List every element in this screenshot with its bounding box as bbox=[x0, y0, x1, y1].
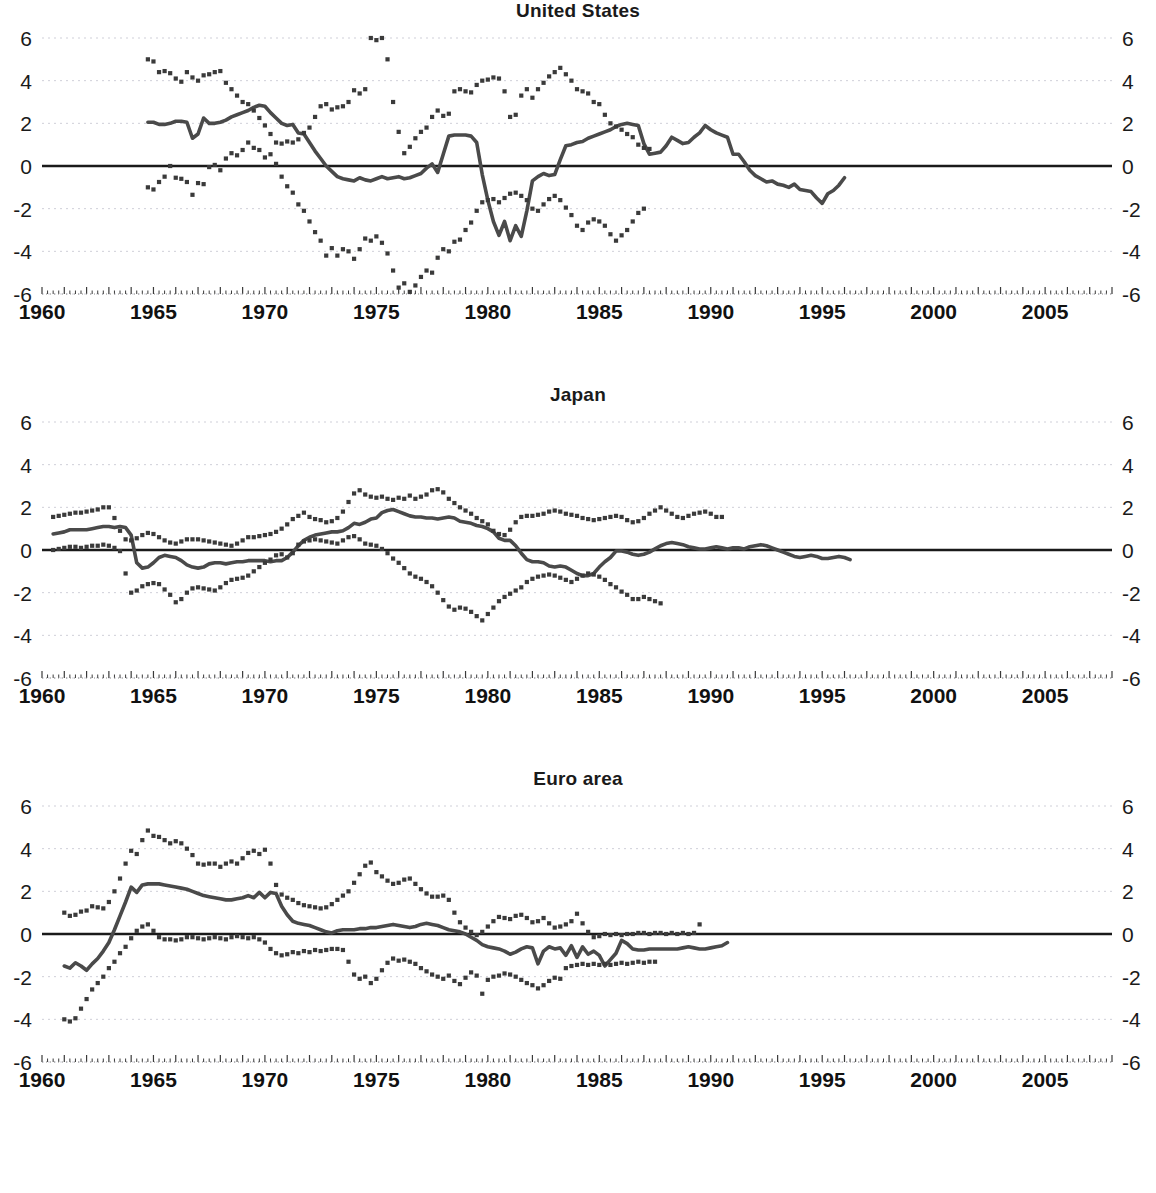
series-band-marker bbox=[497, 76, 501, 80]
series-band-marker bbox=[603, 578, 607, 582]
panel-euro-area: Euro area 66442200-2-2-4-4-6-61960196519… bbox=[0, 768, 1156, 1152]
series-band-marker bbox=[686, 514, 690, 518]
series-band-marker bbox=[90, 987, 94, 991]
series-band-marker bbox=[168, 540, 172, 544]
series-band-marker bbox=[452, 240, 456, 244]
series-band-marker bbox=[207, 862, 211, 866]
series-band-marker bbox=[625, 962, 629, 966]
series-band-marker bbox=[168, 164, 172, 168]
series-band-marker bbox=[419, 130, 423, 134]
series-band-marker bbox=[140, 838, 144, 842]
series-band-marker bbox=[558, 198, 562, 202]
series-band-marker bbox=[564, 966, 568, 970]
series-band-marker bbox=[179, 841, 183, 845]
series-band-marker bbox=[168, 937, 172, 941]
series-band-marker bbox=[631, 932, 635, 936]
series-band-marker bbox=[324, 905, 328, 909]
series-band-marker bbox=[129, 591, 133, 595]
series-band-marker bbox=[101, 975, 105, 979]
series-band-marker bbox=[146, 57, 150, 61]
series-band-marker bbox=[140, 924, 144, 928]
series-band-marker bbox=[447, 497, 451, 501]
x-axis-tick-label: 1970 bbox=[242, 684, 289, 707]
series-band-marker bbox=[436, 975, 440, 979]
y-axis-tick-label-right: -2 bbox=[1122, 198, 1141, 221]
series-band-marker bbox=[363, 87, 367, 91]
series-band-marker bbox=[586, 91, 590, 95]
y-axis-tick-label-left: 6 bbox=[20, 411, 32, 434]
series-band-marker bbox=[475, 516, 479, 520]
series-band-marker bbox=[307, 538, 311, 542]
series-band-marker bbox=[168, 841, 172, 845]
series-band-marker bbox=[525, 580, 529, 584]
series-band-marker bbox=[257, 148, 261, 152]
y-axis-tick-label-left: 2 bbox=[20, 496, 32, 519]
series-band-marker bbox=[118, 951, 122, 955]
series-band-marker bbox=[296, 901, 300, 905]
series-band-marker bbox=[681, 931, 685, 935]
series-band-marker bbox=[185, 591, 189, 595]
series-band-marker bbox=[619, 515, 623, 519]
series-band-marker bbox=[608, 582, 612, 586]
series-band-marker bbox=[575, 912, 579, 916]
series-band-marker bbox=[436, 591, 440, 595]
series-band-marker bbox=[280, 527, 284, 531]
series-band-marker bbox=[692, 931, 696, 935]
x-axis-tick-label: 1985 bbox=[576, 1068, 623, 1091]
series-band-marker bbox=[302, 903, 306, 907]
series-band-marker bbox=[558, 977, 562, 981]
series-band-marker bbox=[79, 910, 83, 914]
series-band-marker bbox=[553, 926, 557, 930]
series-band-marker bbox=[692, 512, 696, 516]
series-band-marker bbox=[335, 898, 339, 902]
series-band-marker bbox=[202, 586, 206, 590]
series-band-marker bbox=[374, 38, 378, 42]
series-band-marker bbox=[391, 882, 395, 886]
series-band-marker bbox=[508, 192, 512, 196]
series-band-marker bbox=[430, 115, 434, 119]
series-band-marker bbox=[62, 513, 66, 517]
series-band-marker bbox=[129, 849, 133, 853]
series-band-marker bbox=[558, 510, 562, 514]
series-band-marker bbox=[698, 511, 702, 515]
series-band-marker bbox=[424, 580, 428, 584]
series-band-marker bbox=[458, 606, 462, 610]
y-axis-tick-label-left: 0 bbox=[20, 539, 32, 562]
series-band-marker bbox=[647, 147, 651, 151]
series-band-marker bbox=[408, 876, 412, 880]
series-band-marker bbox=[402, 151, 406, 155]
series-band-marker bbox=[441, 114, 445, 118]
series-band-marker bbox=[252, 935, 256, 939]
series-band-marker bbox=[112, 889, 116, 893]
series-band-marker bbox=[280, 142, 284, 146]
series-band-marker bbox=[358, 537, 362, 541]
series-band-marker bbox=[296, 137, 300, 141]
series-band-marker bbox=[491, 919, 495, 923]
series-band-marker bbox=[653, 599, 657, 603]
series-band-marker bbox=[575, 87, 579, 91]
series-band-marker bbox=[424, 268, 428, 272]
series-band-marker bbox=[280, 552, 284, 556]
series-line-central bbox=[64, 884, 727, 970]
series-band-marker bbox=[703, 510, 707, 514]
series-band-marker bbox=[62, 1017, 66, 1021]
series-band-marker bbox=[603, 224, 607, 228]
series-band-marker bbox=[123, 945, 127, 949]
series-band-marker bbox=[631, 597, 635, 601]
series-band-marker bbox=[324, 520, 328, 524]
series-band-marker bbox=[363, 542, 367, 546]
series-band-marker bbox=[268, 132, 272, 136]
series-band-marker bbox=[157, 582, 161, 586]
series-band-marker bbox=[179, 597, 183, 601]
series-band-marker bbox=[319, 538, 323, 542]
y-axis-tick-label-left: 4 bbox=[20, 838, 32, 861]
series-band-marker bbox=[313, 517, 317, 521]
series-band-marker bbox=[358, 488, 362, 492]
series-band-marker bbox=[541, 202, 545, 206]
series-band-marker bbox=[218, 542, 222, 546]
series-band-marker bbox=[491, 606, 495, 610]
series-band-marker bbox=[575, 577, 579, 581]
series-band-marker bbox=[57, 547, 61, 551]
series-band-marker bbox=[553, 70, 557, 74]
series-band-marker bbox=[447, 604, 451, 608]
